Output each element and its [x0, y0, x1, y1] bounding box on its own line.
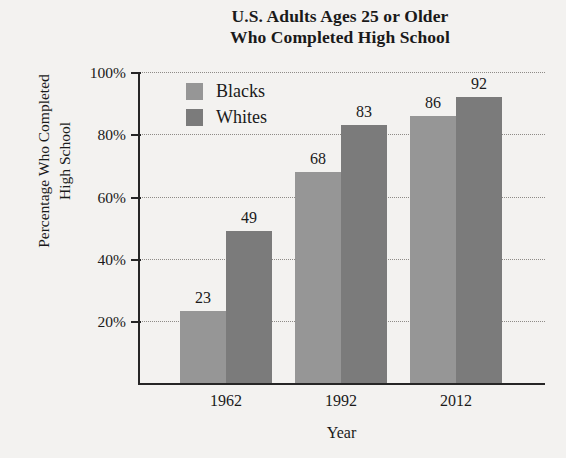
bar-value-blacks-1992: 68: [310, 150, 326, 168]
bar-whites-1992[interactable]: [341, 125, 387, 383]
chart-title-line-1: U.S. Adults Ages 25 or Older: [130, 6, 550, 27]
y-axis-title-line-1: Percentage Who Completed: [33, 11, 54, 311]
y-axis-title: Percentage Who Completed High School: [33, 11, 75, 311]
y-tickmark-60: [131, 197, 141, 199]
bar-blacks-2012[interactable]: [410, 116, 456, 383]
y-tick-label-80: 80%: [98, 126, 126, 144]
x-tick-label-1992: 1992: [325, 392, 357, 410]
bar-value-whites-2012: 92: [471, 75, 487, 93]
y-tickmark-40: [131, 259, 141, 261]
x-axis-line: [138, 383, 545, 385]
legend-item-blacks[interactable]: Blacks: [186, 78, 267, 104]
y-tick-label-40: 40%: [98, 251, 126, 269]
chart-legend: Blacks Whites: [186, 78, 267, 130]
legend-label-blacks: Blacks: [216, 82, 265, 100]
y-tick-label-20: 20%: [98, 313, 126, 331]
x-tick-label-2012: 2012: [440, 392, 472, 410]
bar-whites-1962[interactable]: [226, 231, 272, 383]
y-tickmark-80: [131, 134, 141, 136]
bar-value-blacks-1962: 23: [195, 289, 211, 307]
bar-whites-2012[interactable]: [456, 97, 502, 383]
bar-value-whites-1962: 49: [241, 209, 257, 227]
bar-value-blacks-2012: 86: [425, 94, 441, 112]
y-axis-title-line-2: High School: [54, 11, 75, 311]
legend-label-whites: Whites: [216, 108, 267, 126]
chart-title: U.S. Adults Ages 25 or Older Who Complet…: [130, 6, 550, 48]
x-tick-label-1962: 1962: [210, 392, 242, 410]
bar-value-whites-1992: 83: [356, 103, 372, 121]
legend-item-whites[interactable]: Whites: [186, 104, 267, 130]
legend-swatch-blacks-icon: [186, 83, 203, 100]
chart-title-line-2: Who Completed High School: [130, 27, 550, 48]
gridline-100: 100%: [140, 72, 545, 73]
x-axis-title: Year: [138, 424, 545, 442]
bar-blacks-1992[interactable]: [295, 172, 341, 383]
bar-blacks-1962[interactable]: [180, 311, 226, 383]
y-axis-line: [138, 72, 140, 385]
y-tick-label-60: 60%: [98, 189, 126, 207]
y-tickmark-20: [131, 321, 141, 323]
y-tick-label-100: 100%: [90, 64, 126, 82]
legend-swatch-whites-icon: [186, 109, 203, 126]
y-tickmark-100: [131, 72, 141, 74]
